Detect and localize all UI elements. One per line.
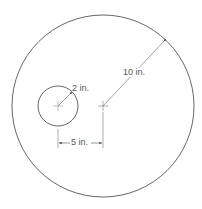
large-radius-label: 10 in.: [122, 68, 146, 77]
geometry-diagram: [0, 0, 202, 209]
center-distance-label: 5 in.: [70, 138, 89, 147]
small-radius-label: 2 in.: [72, 84, 89, 93]
small-radius-dimension-line: [58, 92, 72, 106]
